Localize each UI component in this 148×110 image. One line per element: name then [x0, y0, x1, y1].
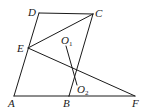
label-f: F [131, 97, 139, 109]
segments [14, 13, 135, 96]
label-b: B [63, 97, 70, 109]
label-e: E [16, 42, 24, 54]
segment-d-c [39, 13, 93, 14]
segment-a-d [14, 13, 39, 96]
geometry-diagram: A B F C D E O1 O2 [0, 0, 148, 110]
label-o1: O1 [61, 34, 73, 48]
label-a: A [7, 97, 15, 109]
label-d: D [27, 6, 36, 18]
label-o2: O2 [77, 83, 89, 97]
label-c: C [95, 7, 103, 19]
labels: A B F C D E O1 O2 [7, 6, 139, 109]
